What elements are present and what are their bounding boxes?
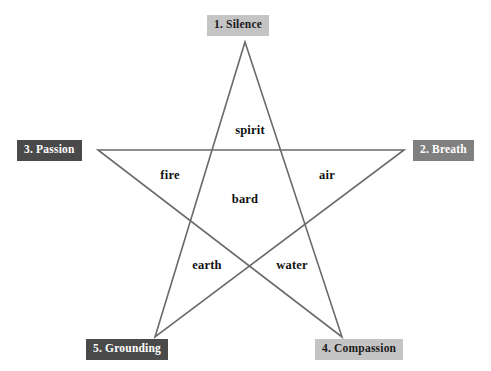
pentagram-diagram: 1. Silence 2. Breath 3. Passion 4. Compa…: [0, 0, 491, 371]
point-label-compassion-text: 4. Compassion: [322, 342, 396, 354]
element-label-bard: bard: [232, 192, 259, 207]
point-label-silence: 1. Silence: [207, 15, 269, 36]
star-outline: [98, 42, 404, 337]
pentagram-star-lines: [0, 0, 491, 371]
element-label-spirit: spirit: [235, 123, 265, 138]
point-label-passion-text: 3. Passion: [24, 143, 75, 155]
element-label-air: air: [319, 168, 335, 183]
point-label-passion: 3. Passion: [17, 140, 82, 161]
point-label-silence-text: 1. Silence: [214, 18, 262, 30]
element-label-water: water: [276, 258, 308, 273]
element-label-earth: earth: [192, 258, 221, 273]
point-label-compassion: 4. Compassion: [315, 339, 403, 360]
element-label-fire: fire: [160, 168, 179, 183]
point-label-grounding: 5. Grounding: [86, 339, 168, 360]
point-label-grounding-text: 5. Grounding: [93, 342, 161, 354]
point-label-breath: 2. Breath: [413, 140, 474, 161]
point-label-breath-text: 2. Breath: [420, 143, 467, 155]
